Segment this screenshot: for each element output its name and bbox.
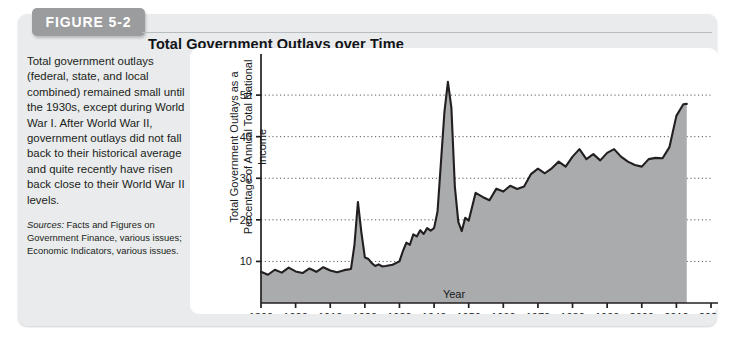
svg-text:1990: 1990 xyxy=(595,311,619,314)
caption-body: Total government outlays (federal, state… xyxy=(27,54,187,208)
title-divider xyxy=(142,32,712,33)
figure-card: FIGURE 5-2 Total Government Outlays over… xyxy=(18,14,717,326)
svg-text:1910: 1910 xyxy=(318,311,342,314)
svg-text:1890: 1890 xyxy=(249,311,273,314)
sources-label: Sources: xyxy=(27,219,64,230)
svg-text:1960: 1960 xyxy=(491,311,515,314)
y-axis-label: Total Government Outlays as a Percentage… xyxy=(227,47,269,247)
chart-plot: 1020304050 18901900191019201930194019501… xyxy=(190,48,718,314)
svg-text:1930: 1930 xyxy=(387,311,411,314)
svg-text:1900: 1900 xyxy=(283,311,307,314)
figure-number-label: FIGURE 5-2 xyxy=(45,14,131,30)
svg-text:2020: 2020 xyxy=(699,311,718,314)
chart-panel: 1020304050 18901900191019201930194019501… xyxy=(190,48,718,314)
svg-text:1980: 1980 xyxy=(560,311,584,314)
svg-text:1950: 1950 xyxy=(456,311,480,314)
figure-caption: Total government outlays (federal, state… xyxy=(27,54,187,258)
svg-text:2010: 2010 xyxy=(664,311,688,314)
x-axis-ticks: 1890190019101920193019401950196019701980… xyxy=(249,303,718,314)
figure-number-tab: FIGURE 5-2 xyxy=(32,8,145,36)
svg-text:1920: 1920 xyxy=(353,311,377,314)
svg-text:2000: 2000 xyxy=(630,311,654,314)
area-series-fill xyxy=(261,82,687,303)
svg-text:10: 10 xyxy=(240,255,252,267)
svg-text:1940: 1940 xyxy=(422,311,446,314)
x-axis-label: Year xyxy=(190,288,718,300)
caption-sources: Sources: Facts and Figures on Government… xyxy=(27,218,187,258)
svg-text:1970: 1970 xyxy=(526,311,550,314)
